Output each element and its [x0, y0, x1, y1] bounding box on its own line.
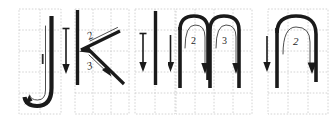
guide-arrow-1-head [139, 62, 146, 72]
stroke-3-diagonal: 3 [84, 48, 124, 84]
panel-5-single-arch: 2 [262, 0, 334, 122]
stroke-2-diagonal: 2 [79, 28, 120, 53]
stroke-2-arch: 2 [180, 16, 209, 80]
stroke-2-order-label: 2 [85, 28, 96, 41]
stroke-3-arch: 3 [210, 16, 240, 88]
stroke-order-figure: 2 3 [0, 0, 336, 122]
stroke-3-order-label: 3 [222, 35, 227, 46]
panel-2-vertical-diagonals: 2 3 [62, 0, 134, 122]
panel-1-hook-stroke [14, 0, 66, 122]
stroke-1-hook [25, 16, 52, 106]
stroke-1-start-tick [42, 54, 44, 64]
guide-arrow-1-head [62, 64, 69, 74]
guide-arrow-1 [139, 33, 146, 72]
guide-arrow-1 [263, 36, 270, 72]
guide-arrow-1-head [263, 62, 270, 72]
stroke-2-order-label: 2 [293, 35, 299, 47]
stroke-2-order-label: 2 [191, 35, 196, 46]
guide-arrow-1 [168, 35, 174, 72]
guide-arrow-1-head [168, 62, 174, 72]
guide-arrow-1 [62, 28, 69, 74]
panel-4-double-arch: 2 3 [168, 0, 260, 122]
